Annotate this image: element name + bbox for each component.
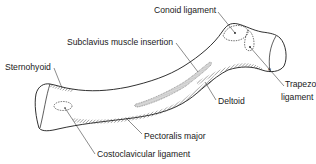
clavicle-diagram: H Conoid ligament Subclavius muscle inse… <box>0 0 316 164</box>
label-sternohyoid: Sternohyoid <box>5 63 51 72</box>
leader-deltoid <box>205 82 216 100</box>
label-pectoralis-major: Pectoralis major <box>144 132 206 141</box>
label-trapezoid: Trapezoid <box>285 80 316 89</box>
label-deltoid: Deltoid <box>218 97 245 106</box>
label-costoclavicular-ligament: Costoclavicular ligament <box>97 150 190 159</box>
label-conoid-ligament: Conoid ligament <box>154 6 216 15</box>
label-subclavius-insertion: Subclavius muscle insertion <box>67 38 173 47</box>
label-trapezoid-ligament: ligament <box>281 93 313 102</box>
leader-pectoralis <box>126 118 142 134</box>
